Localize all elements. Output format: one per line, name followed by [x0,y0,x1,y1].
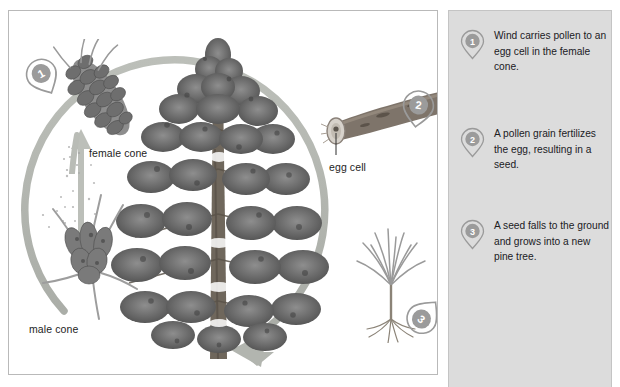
pine-life-cycle-diagram: female cone male cone egg cell 1 2 3 1 [0,0,620,387]
illustration-frame: female cone male cone egg cell 1 2 3 [8,10,438,375]
label-egg-cell: egg cell [329,161,366,173]
male-cone-illustration [31,181,151,321]
step-3-pin-icon: 3 [460,219,485,250]
step-3-text: A seed falls to the ground and grows int… [494,218,610,265]
marker-2-egg-cell[interactable]: 2 [398,87,437,131]
step-item-1[interactable]: 1 Wind carries pollen to an egg cell in … [460,28,610,75]
step-2-number: 2 [470,135,475,145]
steps-panel: 1 Wind carries pollen to an egg cell in … [448,10,612,387]
step-item-2[interactable]: 2 A pollen grain fertilizes the egg, res… [460,126,610,173]
label-male-cone: male cone [29,323,78,335]
step-1-pin-icon: 1 [460,29,485,60]
step-3-number: 3 [470,227,475,237]
step-2-pin-icon: 2 [460,127,485,158]
step-1-text: Wind carries pollen to an egg cell in th… [494,28,610,75]
step-1-number: 1 [470,37,475,47]
label-female-cone: female cone [89,147,147,159]
step-item-3[interactable]: 3 A seed falls to the ground and grows i… [460,218,610,265]
egg-cell-dot [333,126,338,131]
step-2-text: A pollen grain fertilizes the egg, resul… [494,126,610,173]
